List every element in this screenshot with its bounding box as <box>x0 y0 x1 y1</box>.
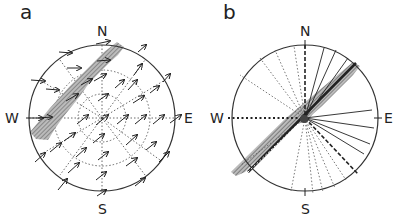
compass-north-b: N <box>300 24 310 38</box>
panel-label-a: a <box>20 0 32 24</box>
compass-south-b: S <box>301 202 310 216</box>
compass-west-a: W <box>5 111 19 125</box>
compass-north-a: N <box>97 24 107 38</box>
compass-west-b: W <box>210 111 224 125</box>
hatched-band <box>30 42 124 140</box>
stereonet-b <box>198 0 396 224</box>
panel-label-b: b <box>223 0 236 24</box>
panel-a: a N S W E <box>0 0 198 224</box>
center-hub <box>300 115 308 123</box>
compass-east-a: E <box>184 111 193 125</box>
tick-marks <box>305 40 382 196</box>
compass-south-a: S <box>98 202 107 216</box>
compass-east-b: E <box>384 111 393 125</box>
panel-b: b N S W E <box>198 0 396 224</box>
